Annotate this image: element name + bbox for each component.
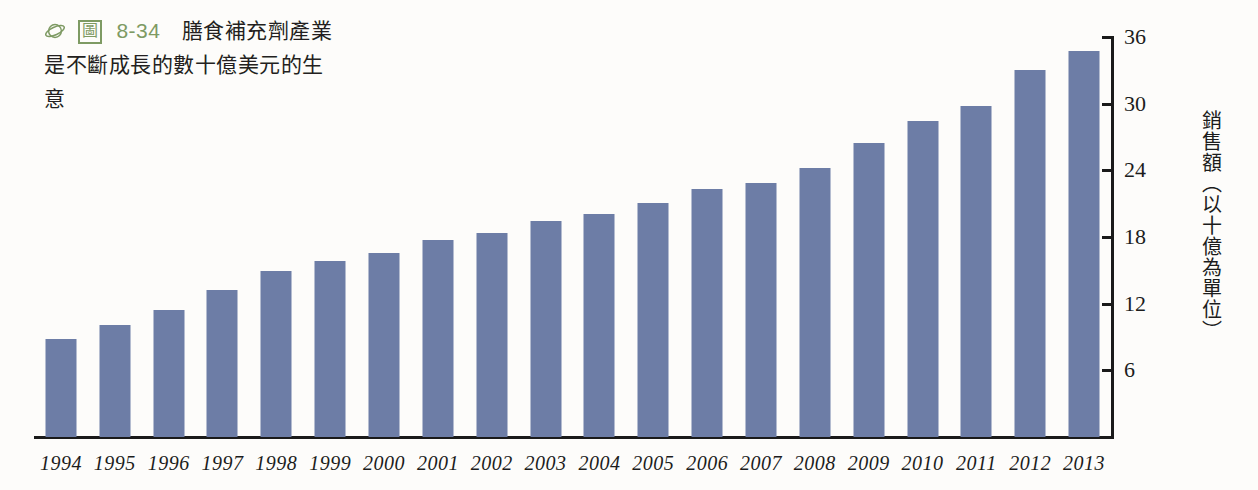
- bar-slot: [788, 37, 842, 437]
- bar-slot: [842, 37, 896, 437]
- bar-slot: [34, 37, 88, 437]
- bar-slot: [734, 37, 788, 437]
- y-axis-tick-label: 24: [1124, 157, 1146, 183]
- y-axis-tick-label: 30: [1124, 91, 1146, 117]
- bar-slot: [249, 37, 303, 437]
- bar[interactable]: [530, 221, 561, 437]
- y-axis-tick-label: 6: [1124, 357, 1135, 383]
- y-axis-title: 銷售額（以十億為單位）: [1196, 110, 1222, 341]
- bar[interactable]: [422, 240, 453, 437]
- bar[interactable]: [99, 325, 130, 437]
- x-axis-tick-label: 2013: [1049, 452, 1119, 475]
- y-axis-tick-mark: [1102, 369, 1114, 372]
- bar-slot: [88, 37, 142, 437]
- bar[interactable]: [153, 310, 184, 437]
- y-axis-tick-mark: [1102, 36, 1114, 39]
- bar[interactable]: [853, 143, 884, 437]
- bar[interactable]: [638, 203, 669, 437]
- bar-slot: [626, 37, 680, 437]
- bar[interactable]: [745, 183, 776, 437]
- bar-slot: [142, 37, 196, 437]
- bar-slot: [411, 37, 465, 437]
- bar-slot: [519, 37, 573, 437]
- bar[interactable]: [261, 271, 292, 437]
- bar[interactable]: [1015, 70, 1046, 437]
- bar-slot: [303, 37, 357, 437]
- figure-page: 圖 8-34 膳食補充劑產業 是不斷成長的數十億美元的生 意 612182430…: [0, 0, 1258, 490]
- bar[interactable]: [584, 214, 615, 437]
- bar[interactable]: [961, 106, 992, 437]
- bar-slot: [896, 37, 950, 437]
- bar-slot: [680, 37, 734, 437]
- y-axis-tick-mark: [1102, 169, 1114, 172]
- bar[interactable]: [692, 189, 723, 437]
- bar[interactable]: [799, 168, 830, 437]
- bar-slot: [1003, 37, 1057, 437]
- bar[interactable]: [207, 290, 238, 437]
- bar-slot: [357, 37, 411, 437]
- y-axis-tick-mark: [1102, 303, 1114, 306]
- y-axis-tick-label: 36: [1124, 24, 1146, 50]
- y-axis-tick-mark: [1102, 236, 1114, 239]
- bar[interactable]: [1069, 51, 1100, 437]
- bar-slot: [573, 37, 627, 437]
- bar-chart: 61218243036 1994199519961997199819992000…: [0, 0, 1258, 490]
- y-axis-tick-label: 12: [1124, 291, 1146, 317]
- bar-slot: [465, 37, 519, 437]
- bar[interactable]: [476, 233, 507, 437]
- bar[interactable]: [369, 253, 400, 437]
- bar[interactable]: [907, 121, 938, 437]
- bar[interactable]: [45, 339, 76, 437]
- y-axis-tick-mark: [1102, 103, 1114, 106]
- bar-slot: [196, 37, 250, 437]
- bar-slot: [949, 37, 1003, 437]
- bar-series: [34, 37, 1111, 437]
- y-axis-tick-label: 18: [1124, 224, 1146, 250]
- bar[interactable]: [315, 261, 346, 437]
